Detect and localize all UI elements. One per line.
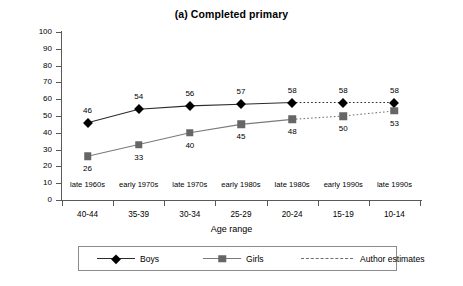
y-axis-tick-label: 80 (24, 62, 52, 70)
chart-title: (a) Completed primary (0, 8, 463, 20)
x-axis-tick (267, 201, 268, 206)
y-axis-tick-label: 90 (24, 45, 52, 53)
x-axis-tick (420, 201, 421, 206)
y-axis-tick-label: 50 (24, 112, 52, 120)
x-axis-tick (215, 201, 216, 206)
legend-dotted-line (301, 258, 353, 259)
chart-figure: (a) Completed primary Percentage Age ran… (0, 0, 463, 286)
y-axis-tick-label: 10 (24, 179, 52, 187)
y-axis-tick (56, 99, 61, 100)
y-axis-tick (56, 49, 61, 50)
data-point-girls (340, 112, 348, 120)
data-label-girls: 33 (124, 154, 154, 162)
data-point-girls (391, 107, 399, 115)
series-lines (62, 32, 420, 200)
legend-diamond-icon (111, 254, 120, 263)
y-axis-tick (56, 200, 61, 201)
y-axis-tick-label: 100 (24, 28, 52, 36)
data-label-boys: 57 (226, 88, 256, 96)
data-label-girls: 53 (379, 120, 409, 128)
data-label-boys: 46 (73, 107, 103, 115)
data-point-girls (237, 121, 245, 129)
series-line-observed-girls (88, 119, 293, 156)
data-label-girls: 45 (226, 133, 256, 141)
legend-label: Girls (246, 254, 264, 264)
x-axis-tick (318, 201, 319, 206)
plot-area: 4654565758585826334045485053 (62, 32, 420, 200)
legend-swatch-dotted-icon (301, 253, 355, 264)
x-axis-tick (369, 201, 370, 206)
x-axis-tick (164, 201, 165, 206)
x-axis-line (61, 200, 422, 201)
legend-item-girls[interactable]: Girls (203, 247, 264, 270)
data-label-boys: 54 (124, 93, 154, 101)
y-axis-tick (56, 66, 61, 67)
data-label-boys: 56 (175, 90, 205, 98)
data-label-boys: 58 (328, 87, 358, 95)
x-axis-tick (113, 201, 114, 206)
x-axis-tick (62, 201, 63, 206)
y-axis-tick-label: 60 (24, 95, 52, 103)
data-label-girls: 48 (277, 128, 307, 136)
data-point-girls (288, 116, 296, 124)
legend-item-author-estimates[interactable]: Author estimates (301, 247, 424, 270)
legend: BoysGirlsAuthor estimates (78, 246, 397, 271)
x-axis-category-label: 10-14 (364, 210, 424, 219)
legend-square-icon (218, 255, 226, 263)
x-axis-title: Age range (0, 224, 463, 234)
data-label-girls: 26 (73, 165, 103, 173)
y-axis-tick-label: 40 (24, 129, 52, 137)
legend-item-boys[interactable]: Boys (97, 247, 159, 270)
data-point-girls (186, 129, 194, 137)
y-axis-tick-label: 30 (24, 146, 52, 154)
y-axis-tick (56, 116, 61, 117)
legend-swatch-diamond-icon (97, 253, 135, 264)
data-label-girls: 50 (328, 125, 358, 133)
y-axis-tick-label: 0 (24, 196, 52, 204)
data-point-girls (84, 153, 92, 161)
data-label-boys: 58 (379, 87, 409, 95)
legend-swatch-square-icon (203, 253, 241, 264)
y-axis-tick (56, 150, 61, 151)
y-axis-tick (56, 166, 61, 167)
legend-label: Boys (140, 254, 159, 264)
y-axis-tick-label: 20 (24, 162, 52, 170)
data-point-girls (135, 141, 143, 149)
data-label-boys: 58 (277, 87, 307, 95)
y-axis-tick (56, 133, 61, 134)
data-label-girls: 40 (175, 142, 205, 150)
y-axis-tick-label: 70 (24, 78, 52, 86)
y-axis-tick (56, 32, 61, 33)
legend-label: Author estimates (360, 254, 424, 264)
y-axis-tick (56, 82, 61, 83)
